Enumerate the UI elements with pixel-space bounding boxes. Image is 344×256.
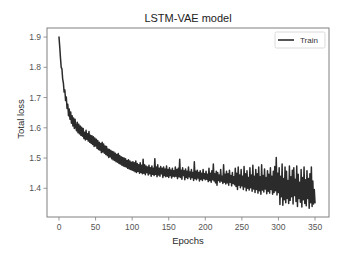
x-tick-label: 100 — [125, 222, 139, 232]
y-tick-label: 1.5 — [29, 153, 41, 163]
legend: Train — [275, 32, 325, 48]
x-tick-label: 300 — [271, 222, 285, 232]
y-tick-label: 1.6 — [29, 123, 41, 133]
y-tick-label: 1.7 — [29, 93, 41, 103]
x-tick-label: 200 — [198, 222, 212, 232]
x-tick-label: 0 — [57, 222, 62, 232]
x-tick-label: 350 — [308, 222, 322, 232]
chart-title: LSTM-VAE model — [144, 12, 231, 24]
x-tick-label: 250 — [235, 222, 249, 232]
legend-label-train: Train — [300, 36, 318, 45]
x-tick-label: 50 — [91, 222, 101, 232]
y-tick-label: 1.9 — [29, 32, 41, 42]
x-tick-label: 150 — [162, 222, 176, 232]
y-tick-label: 1.4 — [29, 183, 41, 193]
y-axis-label: Total loss — [15, 99, 26, 139]
y-tick-label: 1.8 — [29, 62, 41, 72]
x-axis-label: Epochs — [172, 235, 204, 246]
line-chart: LSTM-VAE model 050100150200250300350 1.4… — [0, 0, 344, 256]
